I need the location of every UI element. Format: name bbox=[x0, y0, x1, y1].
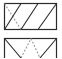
triangulation-diagram bbox=[0, 0, 62, 58]
bottom-panel bbox=[5, 39, 57, 59]
figure-root bbox=[0, 0, 62, 58]
top-panel bbox=[5, 4, 57, 30]
panels-layer bbox=[5, 4, 57, 59]
